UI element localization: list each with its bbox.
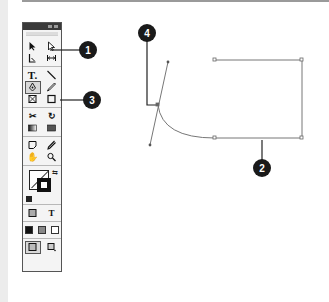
callout-2: 2 bbox=[253, 159, 271, 177]
leader-lines bbox=[50, 41, 262, 160]
anchor-points bbox=[156, 58, 303, 139]
path-diagram bbox=[0, 0, 329, 302]
bezier-path bbox=[150, 60, 302, 145]
anchor-point[interactable] bbox=[213, 136, 216, 139]
leader-line-4 bbox=[147, 41, 158, 105]
anchor-point[interactable] bbox=[213, 58, 216, 61]
path-outline bbox=[158, 60, 302, 138]
anchor-point-selected[interactable] bbox=[156, 103, 159, 106]
callout-3: 3 bbox=[83, 91, 101, 109]
direction-handle-point[interactable] bbox=[167, 61, 170, 64]
callout-4: 4 bbox=[138, 24, 156, 42]
callout-1: 1 bbox=[79, 41, 97, 59]
anchor-point[interactable] bbox=[300, 58, 303, 61]
direction-handle-point[interactable] bbox=[149, 144, 152, 147]
anchor-point[interactable] bbox=[300, 136, 303, 139]
